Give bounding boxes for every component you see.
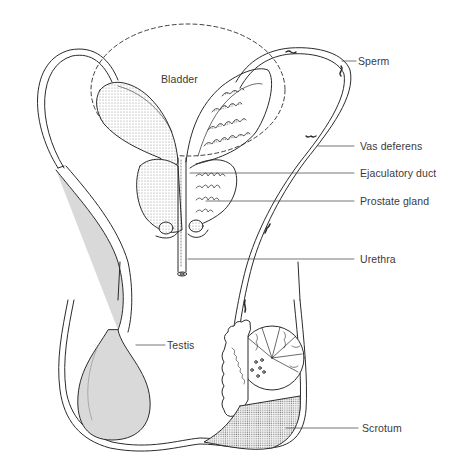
reproductive-anatomy-diagram: [0, 0, 451, 471]
label-bladder: Bladder: [161, 73, 198, 85]
left-testis: [78, 330, 150, 440]
label-vas-deferens: Vas deferens: [360, 140, 422, 152]
prostate-right-lobe: [190, 160, 237, 228]
label-testis: Testis: [167, 339, 194, 351]
scrotum-shaded-region: [204, 396, 300, 449]
label-urethra: Urethra: [360, 253, 396, 265]
label-scrotum: Scrotum: [362, 422, 402, 434]
right-vas-deferens: [232, 48, 351, 340]
left-bulbourethral-gland: [159, 222, 173, 234]
right-testis-section: [240, 326, 304, 390]
epididymis: [222, 320, 251, 416]
label-prostate-gland: Prostate gland: [360, 195, 429, 207]
label-sperm: Sperm: [358, 55, 389, 67]
left-seminal-vesicle: [97, 82, 178, 165]
prostate-left-lobe: [137, 159, 182, 232]
label-ejaculatory-duct: Ejaculatory duct: [360, 167, 436, 179]
right-bulbourethral-gland: [189, 220, 203, 232]
